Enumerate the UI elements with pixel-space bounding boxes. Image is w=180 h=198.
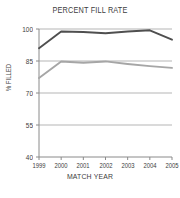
- x-tick-label: 2000: [51, 162, 71, 169]
- data-series: [39, 30, 172, 78]
- y-tick-label: 85: [14, 57, 33, 66]
- y-tick-label: 100: [14, 25, 33, 34]
- chart-page: PERCENT FILL RATE % FILLED MATCH YEAR 40…: [0, 0, 180, 198]
- x-tick-label: 2002: [95, 162, 115, 169]
- x-tick-label: 2003: [118, 162, 138, 169]
- y-tick-label: 70: [14, 89, 33, 98]
- x-tick-label: 2004: [140, 162, 160, 169]
- x-tick-label: 2005: [162, 162, 180, 169]
- x-tick-label: 1999: [29, 162, 49, 169]
- series-line-upper-series: [39, 30, 172, 48]
- gridlines: [39, 29, 172, 125]
- series-line-lower-series: [39, 61, 172, 78]
- y-tick-label: 40: [14, 153, 33, 162]
- x-tick-label: 2001: [73, 162, 93, 169]
- y-tick-label: 55: [14, 121, 33, 130]
